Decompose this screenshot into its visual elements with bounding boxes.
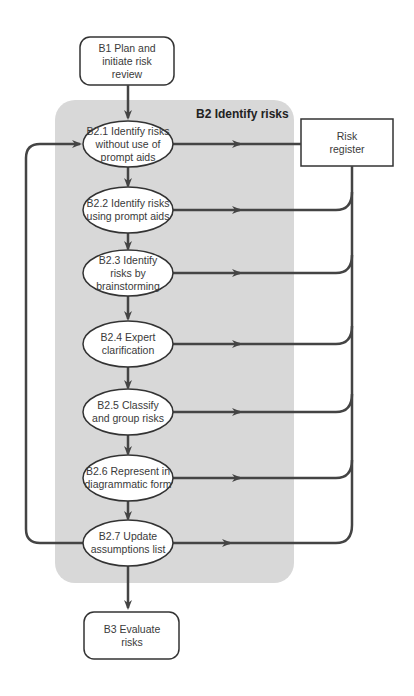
node-b3-label: B3 Evaluate risks bbox=[96, 615, 168, 656]
group-b2-title: B2 Identify risks bbox=[196, 107, 289, 121]
node-b2-5-label: B2.5 Classify and group risks bbox=[88, 398, 168, 426]
node-b2-2-label: B2.2 Identify risks using prompt aids bbox=[86, 189, 170, 231]
flow-diagram-canvas bbox=[0, 0, 414, 696]
node-b1-label: B1 Plan and initiate risk review bbox=[86, 40, 168, 82]
node-b2-3-label: B2.3 Identify risks by brainstorming bbox=[92, 252, 164, 294]
node-b2-6-label: B2.6 Represent in diagrammatic form bbox=[84, 464, 172, 492]
node-b2-7-label: B2.7 Update assumptions list bbox=[88, 529, 168, 557]
node-b2-1-label: B2.1 Identify risks without use of promp… bbox=[86, 123, 170, 165]
node-b2-4-label: B2.4 Expert clarification bbox=[90, 330, 166, 358]
risk-register-label: Risk register bbox=[320, 121, 374, 164]
